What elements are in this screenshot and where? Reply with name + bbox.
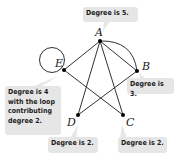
edge-a-d bbox=[78, 41, 100, 115]
vertex-label-d: D bbox=[67, 116, 76, 129]
vertex-a-dot bbox=[98, 39, 102, 43]
vertex-label-a: A bbox=[95, 26, 103, 39]
vertex-label-c: C bbox=[126, 116, 134, 129]
callout-degree-d: Degree is 2. bbox=[48, 137, 98, 153]
callout-degree-c: Degree is 2. bbox=[118, 137, 167, 153]
vertex-b-dot bbox=[135, 69, 139, 73]
vertex-d-dot bbox=[76, 113, 80, 117]
vertex-label-b: B bbox=[142, 60, 150, 73]
callout-degree-e: Degree is 4 with the loop contributing d… bbox=[5, 86, 61, 135]
edge-a-b bbox=[100, 41, 137, 71]
edge-a-e bbox=[64, 41, 100, 70]
pointer-a bbox=[103, 21, 110, 31]
vertex-label-e: E bbox=[55, 57, 63, 70]
callout-degree-b: Degree is 3. bbox=[127, 78, 174, 94]
edge-e-c bbox=[64, 70, 123, 115]
callout-degree-a: Degree is 5. bbox=[83, 7, 138, 22]
edge-a-c bbox=[100, 41, 123, 115]
vertex-c-dot bbox=[121, 113, 125, 117]
